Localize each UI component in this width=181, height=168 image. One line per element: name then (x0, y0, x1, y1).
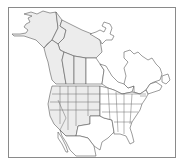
north-america-map (0, 0, 181, 168)
region-saskatchewan (74, 56, 86, 84)
region-newfoundland (162, 74, 170, 84)
region-manitoba (86, 58, 104, 84)
